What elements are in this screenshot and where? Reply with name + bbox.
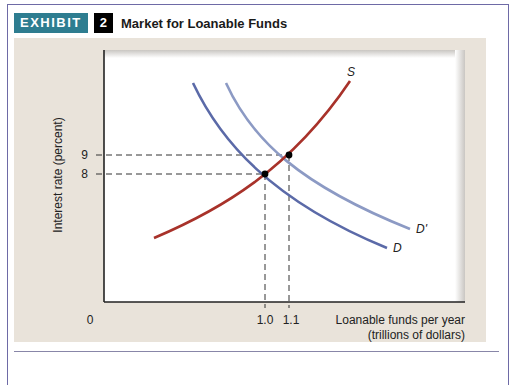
label-s: S (347, 65, 355, 79)
x-axis-title-line1: Loanable funds per year (336, 313, 465, 327)
label-d-prime: D' (416, 222, 428, 236)
y-tick-9: 9 (81, 148, 88, 162)
y-tick-8: 8 (81, 167, 88, 181)
x-tick-1-0: 1.0 (257, 313, 274, 327)
y-axis-title: Interest rate (percent) (51, 117, 65, 232)
plot-area (104, 50, 465, 302)
equilibrium-point-new (286, 152, 293, 159)
x-tick-1-1: 1.1 (283, 313, 300, 327)
label-d: D (393, 241, 402, 255)
equilibrium-point-initial (262, 171, 269, 178)
origin-label: 0 (87, 313, 94, 327)
x-axis-title-line2: (trillions of dollars) (368, 328, 465, 342)
